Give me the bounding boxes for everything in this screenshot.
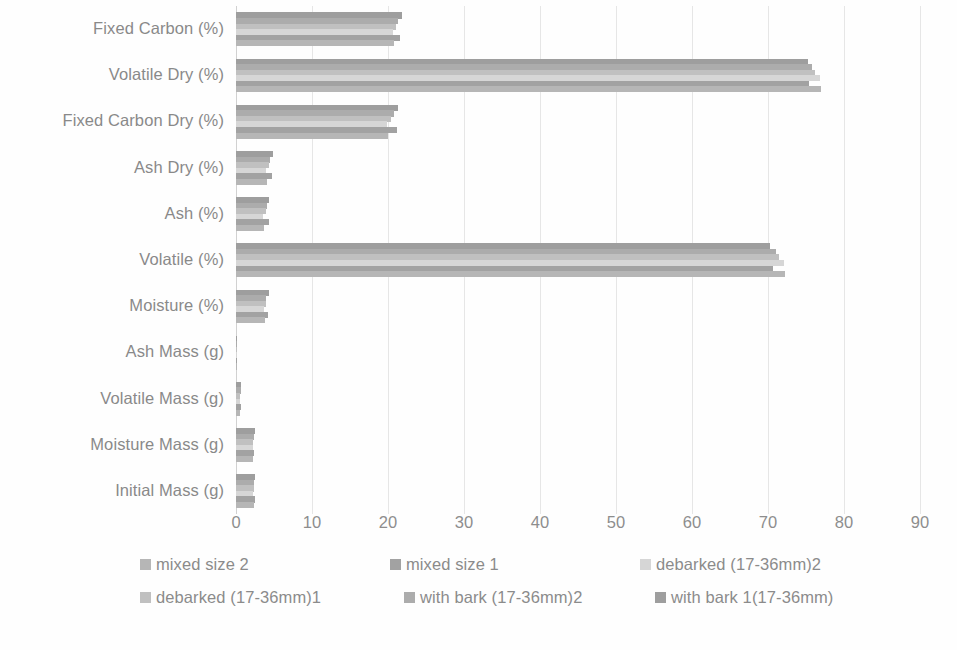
value-axis-tick: 30 — [455, 514, 473, 531]
bar — [236, 133, 388, 139]
bar-group — [236, 52, 920, 98]
category-label: Ash Mass (g) — [126, 343, 224, 360]
legend-swatch-icon — [404, 592, 415, 603]
legend-label: debarked (17-36mm)2 — [656, 556, 821, 573]
bar-chart: Fixed Carbon (%)Volatile Dry (%)Fixed Ca… — [0, 0, 957, 650]
legend-item[interactable]: with bark (17-36mm)2 — [404, 589, 582, 606]
legend-row-bottom: debarked (17-36mm)1with bark (17-36mm)2w… — [0, 585, 957, 615]
category-label: Moisture (%) — [129, 297, 224, 314]
category-label: Volatile Mass (g) — [100, 390, 224, 407]
category-label: Ash Dry (%) — [134, 159, 224, 176]
category-label: Volatile (%) — [139, 251, 224, 268]
value-axis-tick: 70 — [759, 514, 777, 531]
category-label: Fixed Carbon Dry (%) — [62, 112, 224, 129]
gridline — [920, 6, 921, 514]
legend-label: with bark 1(17-36mm) — [671, 589, 833, 606]
bar — [236, 317, 265, 323]
bar — [236, 502, 254, 508]
bar-group — [236, 145, 920, 191]
legend-swatch-icon — [390, 559, 401, 570]
legend-swatch-icon — [140, 592, 151, 603]
value-axis-tick: 10 — [303, 514, 321, 531]
category-label: Initial Mass (g) — [115, 482, 224, 499]
bar — [236, 456, 253, 462]
bar — [236, 410, 240, 416]
value-axis-tick: 60 — [683, 514, 701, 531]
chart-legend: mixed size 2mixed size 1debarked (17-36m… — [0, 552, 957, 632]
bar-group — [236, 283, 920, 329]
category-label: Volatile Dry (%) — [109, 66, 224, 83]
legend-row-top: mixed size 2mixed size 1debarked (17-36m… — [0, 552, 957, 582]
value-axis-tick: 80 — [835, 514, 853, 531]
bar — [236, 179, 267, 185]
bar-group — [236, 468, 920, 514]
value-axis-tick: 20 — [379, 514, 397, 531]
legend-label: debarked (17-36mm)1 — [156, 589, 321, 606]
category-label: Ash (%) — [165, 205, 224, 222]
value-axis-tick: 50 — [607, 514, 625, 531]
bar-group — [236, 422, 920, 468]
bar-group — [236, 237, 920, 283]
value-axis-tick: 0 — [231, 514, 240, 531]
bar-group — [236, 98, 920, 144]
bar-group — [236, 375, 920, 421]
plot-wrapper: Fixed Carbon (%)Volatile Dry (%)Fixed Ca… — [0, 6, 957, 514]
legend-label: mixed size 2 — [156, 556, 249, 573]
bar — [236, 40, 394, 46]
legend-item[interactable]: debarked (17-36mm)1 — [140, 589, 321, 606]
legend-swatch-icon — [640, 559, 651, 570]
bar — [236, 86, 821, 92]
legend-item[interactable]: mixed size 2 — [140, 556, 249, 573]
legend-swatch-icon — [655, 592, 666, 603]
bar — [236, 363, 237, 369]
category-label: Fixed Carbon (%) — [93, 20, 224, 37]
legend-item[interactable]: with bark 1(17-36mm) — [655, 589, 833, 606]
value-axis-tick: 90 — [911, 514, 929, 531]
category-axis: Fixed Carbon (%)Volatile Dry (%)Fixed Ca… — [0, 6, 232, 514]
bar-group — [236, 329, 920, 375]
bar — [236, 225, 264, 231]
legend-label: with bark (17-36mm)2 — [420, 589, 582, 606]
bar — [236, 271, 785, 277]
category-label: Moisture Mass (g) — [90, 436, 224, 453]
legend-item[interactable]: mixed size 1 — [390, 556, 499, 573]
legend-swatch-icon — [140, 559, 151, 570]
plot-area — [236, 6, 920, 514]
legend-label: mixed size 1 — [406, 556, 499, 573]
bar-group — [236, 191, 920, 237]
value-axis: 0102030405060708090 — [236, 514, 920, 544]
legend-item[interactable]: debarked (17-36mm)2 — [640, 556, 821, 573]
bar-group — [236, 6, 920, 52]
value-axis-tick: 40 — [531, 514, 549, 531]
